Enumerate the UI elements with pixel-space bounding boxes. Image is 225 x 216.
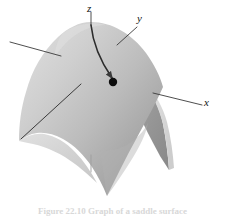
x-axis-line (153, 93, 202, 105)
figure-container: z y x Figure 22.10 Graph of a saddle sur… (0, 0, 225, 216)
saddle-surface-illustration (0, 0, 225, 216)
axis-label-y: y (137, 13, 142, 24)
marked-point (109, 78, 117, 86)
axis-label-z: z (87, 3, 91, 14)
axis-label-x: x (204, 97, 209, 108)
figure-caption: Figure 22.10 Graph of a saddle surface (0, 206, 225, 216)
